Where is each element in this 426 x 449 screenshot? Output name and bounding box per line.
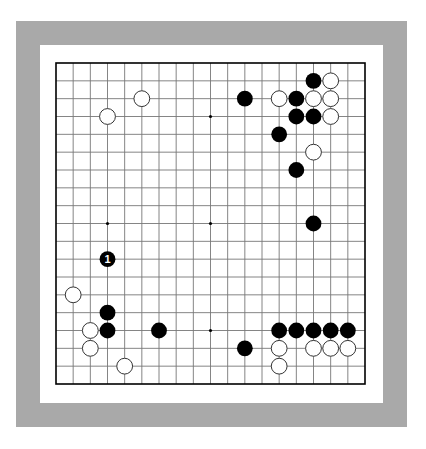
move-number-label: 1	[104, 253, 110, 265]
white-stone	[323, 340, 339, 356]
black-stone	[237, 340, 253, 356]
white-stone	[271, 340, 287, 356]
white-stone	[134, 91, 150, 107]
white-stone	[323, 73, 339, 89]
white-stone	[306, 144, 322, 160]
white-stone	[340, 340, 356, 356]
black-stone	[306, 109, 322, 125]
black-stone	[271, 323, 287, 339]
black-stone	[306, 216, 322, 232]
white-stone	[65, 287, 81, 303]
black-stone	[288, 109, 304, 125]
black-stone	[271, 126, 287, 142]
white-stone	[323, 109, 339, 125]
star-point	[209, 115, 212, 118]
black-stone	[323, 323, 339, 339]
white-stone	[82, 323, 98, 339]
go-board[interactable]: 1	[0, 0, 426, 449]
black-stone	[151, 323, 167, 339]
white-stone	[306, 340, 322, 356]
black-stone	[306, 323, 322, 339]
black-stone	[100, 323, 116, 339]
white-stone	[100, 109, 116, 125]
star-point	[209, 329, 212, 332]
black-stone	[288, 323, 304, 339]
white-stone	[271, 358, 287, 374]
white-stone	[271, 91, 287, 107]
black-stone	[306, 73, 322, 89]
black-stone	[100, 305, 116, 321]
star-point	[106, 222, 109, 225]
black-stone	[288, 91, 304, 107]
star-point	[209, 222, 212, 225]
black-stone: 1	[100, 251, 116, 267]
black-stone	[237, 91, 253, 107]
black-stone	[288, 162, 304, 178]
white-stone	[306, 91, 322, 107]
white-stone	[82, 340, 98, 356]
white-stone	[323, 91, 339, 107]
black-stone	[340, 323, 356, 339]
white-stone	[117, 358, 133, 374]
